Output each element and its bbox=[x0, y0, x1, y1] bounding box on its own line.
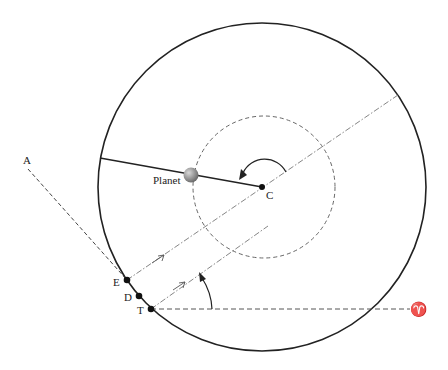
angle-arc-t bbox=[202, 278, 212, 309]
point-d bbox=[136, 293, 143, 300]
label-c: C bbox=[266, 189, 273, 201]
label-planet: Planet bbox=[153, 174, 181, 186]
label-d: D bbox=[124, 291, 132, 303]
radius-line-planet bbox=[100, 158, 262, 187]
orbital-diagram: Planet C A E D T ♈ bbox=[0, 0, 448, 370]
arc-arrowhead-t-icon bbox=[199, 272, 206, 282]
point-c bbox=[259, 184, 265, 190]
dashdot-line-lower bbox=[151, 226, 268, 309]
aries-symbol-icon: ♈ bbox=[410, 301, 427, 318]
planet-icon bbox=[184, 168, 199, 183]
dashed-line-a bbox=[28, 169, 127, 280]
label-e: E bbox=[113, 276, 120, 288]
label-a: A bbox=[23, 154, 31, 166]
point-t bbox=[148, 306, 155, 313]
label-t: T bbox=[137, 304, 144, 316]
angle-arc-center bbox=[243, 159, 286, 173]
point-e bbox=[124, 277, 131, 284]
arc-arrowhead-center-icon bbox=[239, 169, 247, 180]
